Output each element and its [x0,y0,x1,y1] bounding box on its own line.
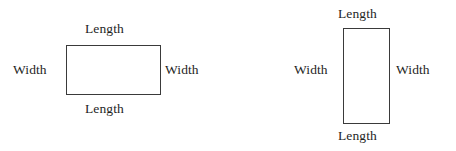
right-rectangle-top-length-label: Length [338,6,377,22]
left-rectangle-bottom-length-label: Length [85,101,124,117]
left-rectangle-top-length-label: Length [85,21,124,37]
left-rectangle-left-width-label: Width [13,62,47,78]
right-rectangle-bottom-length-label: Length [338,128,377,144]
right-rectangle-left-width-label: Width [294,62,328,78]
figure-canvas: Length Width Width Length Length Width W… [0,0,456,151]
horizontal-rectangle-shape [66,45,161,95]
right-rectangle-right-width-label: Width [396,62,430,78]
left-rectangle-right-width-label: Width [165,62,199,78]
vertical-rectangle-shape [343,28,390,124]
